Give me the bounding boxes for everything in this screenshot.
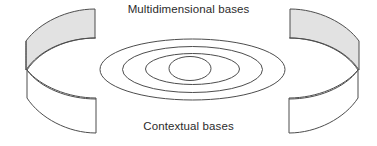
label-contextual-bases: Contextual bases (0, 120, 377, 132)
ring-inner (169, 57, 211, 81)
center-concentric-rings (100, 39, 285, 100)
ring-diagram-figure: Multidimensional bases Contextual bases (0, 0, 377, 146)
label-multidimensional-bases: Multidimensional bases (0, 3, 377, 15)
right-upper-ring-surface (290, 9, 359, 70)
left-upper-ring-surface (26, 9, 95, 70)
ring-outer (100, 39, 285, 100)
ring-third (146, 54, 240, 85)
